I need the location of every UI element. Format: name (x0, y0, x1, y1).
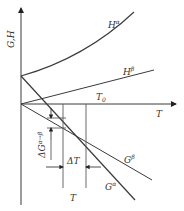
t-bottom-label: T (70, 193, 77, 203)
phase-diagram: G,H Hα Hβ T0 T Gβ Gα ΔGα→β ΔT T (0, 0, 184, 211)
g-beta-label: Gβ (124, 153, 135, 165)
delta-t-label: ΔT (66, 156, 80, 166)
t-axis-label: T (156, 109, 163, 119)
delta-g-label: ΔGα→β (36, 131, 47, 159)
g-alpha-label: Gα (105, 180, 116, 192)
h-beta-line (21, 70, 154, 104)
t0-label: T0 (96, 92, 106, 103)
y-axis-label: G,H (6, 30, 16, 48)
h-alpha-label: Hα (107, 18, 120, 30)
